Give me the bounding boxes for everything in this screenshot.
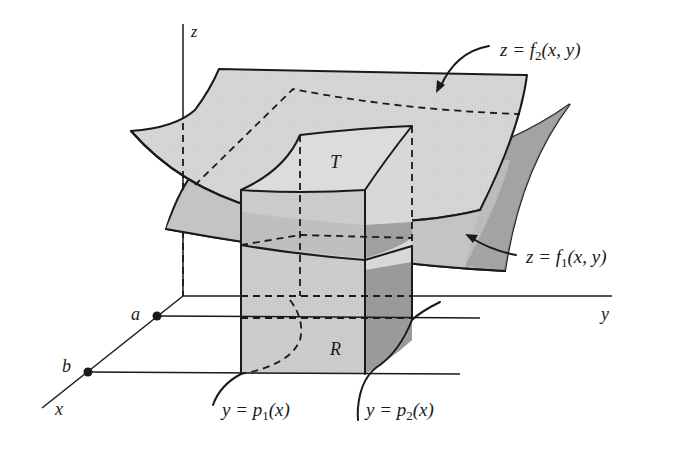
z-axis-label: z	[190, 23, 198, 40]
point-a	[153, 312, 162, 321]
point-a-label: a	[131, 304, 140, 324]
x-axis-label: x	[54, 399, 63, 419]
solid-T-label: T	[330, 151, 342, 172]
x-axis	[42, 296, 183, 408]
region-R-label: R	[329, 339, 341, 359]
point-b	[84, 368, 93, 377]
lower-surface-label: z = f1(x, y)	[525, 246, 607, 270]
curve-p1-label: y = p1(x)	[220, 399, 290, 423]
y-axis-label: y	[599, 304, 609, 324]
upper-surface-label: z = f2(x, y)	[499, 39, 581, 63]
diagram-canvas: z y x a b T R z = f2(x, y) z = f1(x, y) …	[0, 0, 691, 454]
curve-p2-label: y = p2(x)	[364, 399, 434, 423]
point-b-label: b	[62, 356, 71, 376]
line-x-equals-b	[88, 372, 460, 374]
